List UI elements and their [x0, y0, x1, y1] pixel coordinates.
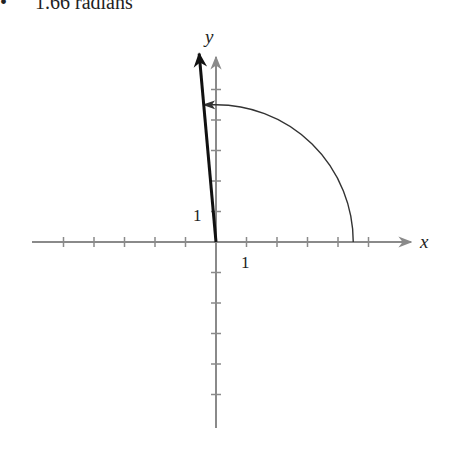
y-axis-label: y: [203, 26, 214, 47]
y-unit-label: 1: [193, 206, 202, 225]
x-axis-label: x: [419, 231, 429, 252]
x-unit-label: 1: [241, 253, 250, 272]
angle-diagram: x y 1 1: [0, 0, 451, 454]
angle-arc: [204, 105, 353, 242]
terminal-side-vector: [199, 54, 216, 242]
